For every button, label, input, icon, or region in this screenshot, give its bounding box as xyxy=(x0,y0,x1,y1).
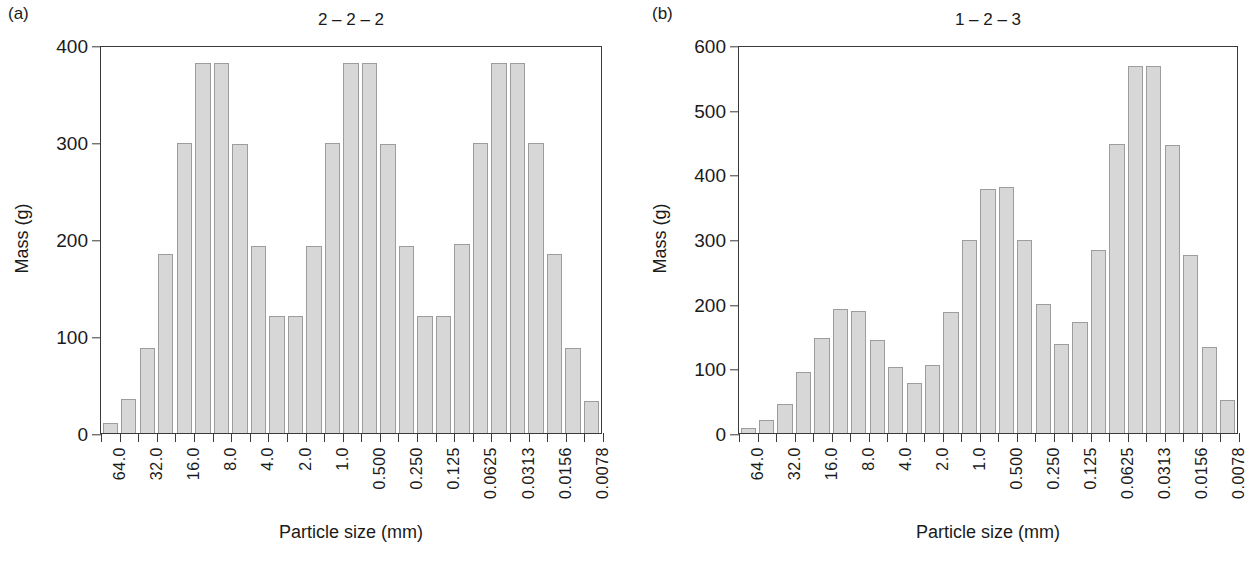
x-axis-tick xyxy=(1017,433,1018,442)
x-axis-tick xyxy=(361,433,362,442)
x-axis-tick xyxy=(250,433,251,442)
x-axis-tick xyxy=(906,433,907,442)
bar xyxy=(158,254,173,433)
x-axis-tick-label: 16.0 xyxy=(823,447,841,480)
x-axis-tick xyxy=(194,433,195,442)
x-axis-tick-label: 0.0313 xyxy=(520,447,538,499)
x-axis-tick-label: 0.0625 xyxy=(482,447,500,499)
x-axis-tick-label: 32.0 xyxy=(148,447,166,480)
y-axis-tick-label: 600 xyxy=(694,36,726,58)
bar xyxy=(777,404,792,433)
bar xyxy=(814,338,829,433)
x-axis-tick xyxy=(1220,433,1221,442)
bar xyxy=(306,246,321,433)
bar xyxy=(1072,322,1087,433)
bar xyxy=(103,423,118,433)
y-axis-tick-label: 200 xyxy=(694,295,726,317)
y-axis-tick xyxy=(730,46,739,47)
panel-b: (b) 1 – 2 – 3 010020030040050060064.032.… xyxy=(640,0,1259,561)
x-axis-tick-label: 0.0313 xyxy=(1156,447,1174,499)
bar xyxy=(214,63,229,433)
x-axis-tick xyxy=(101,433,102,442)
x-axis-tick xyxy=(943,433,944,442)
y-axis-tick-label: 400 xyxy=(694,165,726,187)
bar xyxy=(1091,250,1106,433)
bar xyxy=(1128,66,1143,433)
bar xyxy=(528,143,543,433)
bar xyxy=(195,63,210,433)
bar xyxy=(436,316,451,433)
x-axis-tick xyxy=(1183,433,1184,442)
y-axis-tick-label: 400 xyxy=(56,36,88,58)
y-axis-tick xyxy=(730,370,739,371)
y-axis-tick xyxy=(730,434,739,435)
bar xyxy=(1220,400,1235,433)
x-axis-tick-label: 8.0 xyxy=(222,447,240,471)
x-axis-tick xyxy=(1072,433,1073,442)
x-axis-tick xyxy=(1054,433,1055,442)
x-axis-tick-label: 2.0 xyxy=(297,447,315,471)
bar xyxy=(907,383,922,433)
bar xyxy=(1017,240,1032,433)
y-axis-tick xyxy=(92,434,101,435)
x-axis-tick-label: 8.0 xyxy=(860,447,878,471)
x-axis-tick xyxy=(324,433,325,442)
panel-b-plot-area: 010020030040050060064.032.016.08.04.02.0… xyxy=(738,46,1238,434)
x-axis-tick xyxy=(306,433,307,442)
x-axis-tick xyxy=(832,433,833,442)
bar xyxy=(121,399,136,433)
x-axis-tick xyxy=(1202,433,1203,442)
x-axis-tick xyxy=(758,433,759,442)
bar xyxy=(510,63,525,433)
bar xyxy=(870,340,885,433)
x-axis-tick xyxy=(924,433,925,442)
x-axis-tick-label: 0.125 xyxy=(1082,447,1100,490)
bar xyxy=(232,144,247,434)
bar xyxy=(962,240,977,433)
x-axis-tick xyxy=(887,433,888,442)
y-axis-tick xyxy=(92,337,101,338)
x-axis-tick xyxy=(1035,433,1036,442)
bar xyxy=(417,316,432,433)
y-axis-tick-label: 300 xyxy=(56,133,88,155)
bar xyxy=(1054,344,1069,433)
panel-a-plot-area: 010020030040064.032.016.08.04.02.01.00.5… xyxy=(100,46,602,434)
bar xyxy=(1036,304,1051,433)
x-axis-tick xyxy=(850,433,851,442)
panel-a-title: 2 – 2 – 2 xyxy=(100,10,602,30)
x-axis-tick-label: 32.0 xyxy=(786,447,804,480)
x-axis-tick xyxy=(287,433,288,442)
bar xyxy=(380,144,395,434)
panel-b-letter: (b) xyxy=(652,4,673,24)
x-axis-tick xyxy=(138,433,139,442)
bar xyxy=(851,311,866,433)
bar xyxy=(1146,66,1161,433)
x-axis-tick xyxy=(776,433,777,442)
x-axis-tick xyxy=(547,433,548,442)
x-axis-tick xyxy=(961,433,962,442)
x-axis-tick xyxy=(603,433,604,442)
x-axis-tick xyxy=(980,433,981,442)
bar xyxy=(491,63,506,433)
bar xyxy=(473,143,488,433)
bar xyxy=(325,143,340,433)
x-axis-tick-label: 64.0 xyxy=(749,447,767,480)
x-axis-tick xyxy=(1109,433,1110,442)
x-axis-tick xyxy=(454,433,455,442)
bar xyxy=(741,428,756,433)
x-axis-tick xyxy=(1239,433,1240,442)
x-axis-tick xyxy=(869,433,870,442)
panel-b-bar-series xyxy=(739,47,1237,433)
x-axis-tick xyxy=(398,433,399,442)
bar xyxy=(1165,145,1180,433)
y-axis-tick xyxy=(92,240,101,241)
bar xyxy=(362,63,377,433)
x-axis-tick xyxy=(343,433,344,442)
x-axis-tick-label: 0.125 xyxy=(445,447,463,490)
bar xyxy=(759,420,774,433)
x-axis-tick xyxy=(510,433,511,442)
bar xyxy=(980,189,995,433)
bar xyxy=(1109,144,1124,434)
x-axis-tick xyxy=(436,433,437,442)
x-axis-tick xyxy=(739,433,740,442)
